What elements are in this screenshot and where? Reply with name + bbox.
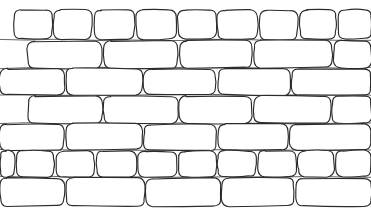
brick-wall-figure bbox=[0, 0, 371, 218]
brick bbox=[138, 151, 177, 177]
brick bbox=[94, 10, 135, 40]
brick bbox=[66, 68, 143, 95]
brick bbox=[217, 150, 256, 177]
brick bbox=[217, 10, 258, 40]
brick bbox=[66, 123, 143, 150]
brick bbox=[0, 150, 15, 177]
brick bbox=[144, 124, 217, 151]
brick bbox=[218, 68, 291, 95]
brick bbox=[218, 124, 289, 151]
brick bbox=[53, 9, 92, 39]
brick bbox=[338, 9, 371, 39]
brick bbox=[258, 150, 297, 177]
brick bbox=[253, 95, 331, 123]
brick bbox=[336, 150, 371, 177]
brick bbox=[14, 10, 53, 39]
brick bbox=[289, 124, 371, 151]
brick bbox=[103, 40, 178, 68]
brick-wall-drawing bbox=[0, 0, 371, 218]
brick bbox=[221, 178, 294, 207]
brick bbox=[179, 96, 252, 124]
brick bbox=[332, 96, 371, 124]
brick bbox=[179, 151, 217, 178]
brick bbox=[259, 10, 298, 40]
brick bbox=[254, 40, 333, 68]
brick-group bbox=[0, 9, 371, 207]
brick bbox=[28, 95, 103, 123]
brick bbox=[0, 124, 64, 151]
brick bbox=[136, 9, 177, 40]
brick bbox=[291, 69, 370, 95]
brick bbox=[16, 150, 54, 177]
brick bbox=[333, 40, 371, 69]
brick bbox=[66, 177, 145, 206]
brick bbox=[96, 151, 137, 177]
brick bbox=[103, 96, 178, 124]
brick bbox=[296, 179, 371, 207]
brick bbox=[179, 40, 252, 68]
brick bbox=[56, 151, 95, 178]
brick bbox=[177, 10, 216, 39]
brick bbox=[0, 68, 65, 95]
brick bbox=[297, 150, 334, 177]
brick bbox=[0, 178, 65, 207]
brick bbox=[27, 41, 102, 69]
brick bbox=[143, 69, 216, 95]
brick bbox=[299, 9, 336, 39]
brick bbox=[145, 178, 220, 207]
